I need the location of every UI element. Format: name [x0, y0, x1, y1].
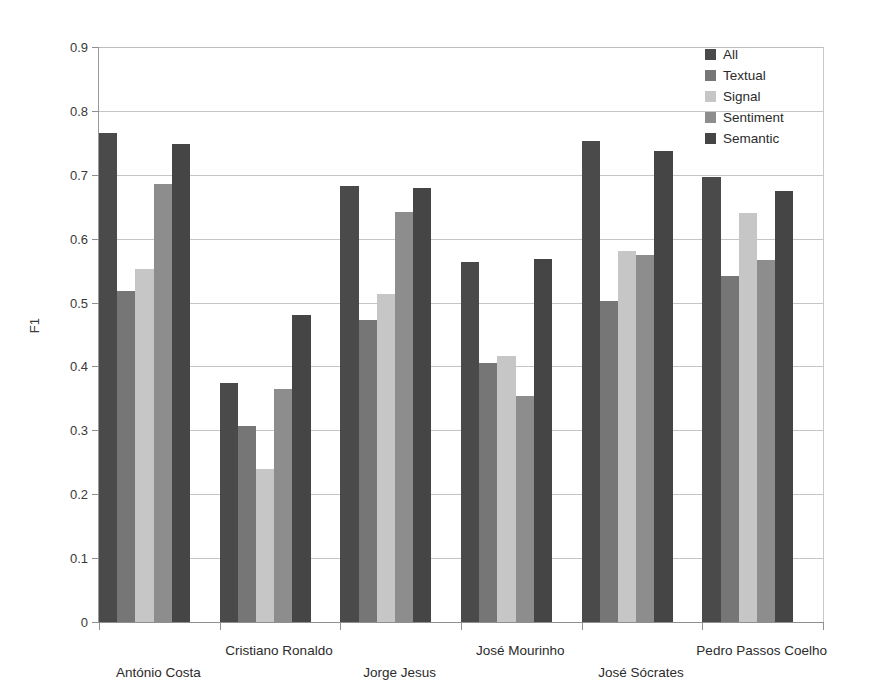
bar-chart: F1 0.90.80.70.60.50.40.30.20.10 António … — [0, 0, 869, 696]
x-tick-mark — [461, 622, 462, 630]
bar — [618, 251, 636, 622]
bar — [739, 213, 757, 622]
bar — [220, 383, 238, 622]
x-axis-label: Jorge Jesus — [363, 665, 436, 680]
y-tick-label: 0.1 — [70, 552, 99, 565]
bar — [461, 262, 479, 622]
bar — [292, 315, 310, 622]
bar — [359, 320, 377, 622]
x-axis-label: José Mourinho — [476, 643, 565, 658]
bar — [413, 188, 431, 622]
bar — [497, 356, 515, 622]
chart-legend: AllTextualSignalSentimentSemantic — [697, 38, 825, 156]
bar — [99, 133, 117, 622]
legend-label: All — [723, 48, 738, 62]
legend-label: Semantic — [723, 132, 779, 146]
x-tick-mark — [702, 622, 703, 630]
bar — [274, 389, 292, 622]
bar-group — [99, 47, 220, 622]
legend-label: Textual — [723, 69, 766, 83]
bar — [534, 259, 552, 622]
bar — [154, 184, 172, 622]
y-tick-label: 0.3 — [70, 424, 99, 437]
bar — [582, 141, 600, 622]
y-tick-label: 0 — [81, 616, 99, 629]
bar — [654, 151, 672, 623]
bar — [479, 363, 497, 622]
bar — [340, 186, 358, 622]
x-axis-label: António Costa — [116, 665, 201, 680]
bar-group — [461, 47, 582, 622]
x-tick-mark — [99, 622, 100, 630]
legend-swatch-icon — [705, 49, 716, 60]
bar — [721, 276, 739, 622]
y-tick-label: 0.2 — [70, 488, 99, 501]
x-axis-label: José Sócrates — [598, 665, 684, 680]
x-axis-labels: António CostaCristiano RonaldoJorge Jesu… — [0, 631, 869, 691]
bar — [377, 294, 395, 622]
legend-swatch-icon — [705, 70, 716, 81]
legend-item: All — [705, 44, 819, 65]
legend-item: Semantic — [705, 128, 819, 149]
x-tick-mark — [582, 622, 583, 630]
legend-swatch-icon — [705, 112, 716, 123]
y-tick-label: 0.6 — [70, 232, 99, 245]
bar — [117, 291, 135, 622]
bar — [238, 426, 256, 622]
bar — [775, 191, 793, 622]
bar — [395, 212, 413, 622]
y-tick-label: 0.7 — [70, 168, 99, 181]
y-tick-label: 0.4 — [70, 360, 99, 373]
x-tick-mark — [823, 622, 824, 630]
legend-item: Signal — [705, 86, 819, 107]
bar-group — [220, 47, 341, 622]
bar-group — [340, 47, 461, 622]
bar-group — [582, 47, 703, 622]
bar — [172, 144, 190, 622]
y-tick-label: 0.5 — [70, 296, 99, 309]
legend-label: Signal — [723, 90, 761, 104]
legend-swatch-icon — [705, 91, 716, 102]
y-tick-label: 0.8 — [70, 104, 99, 117]
bar — [636, 255, 654, 622]
bar — [600, 301, 618, 622]
bar — [757, 260, 775, 622]
y-axis-title: F1 — [27, 306, 42, 346]
legend-item: Textual — [705, 65, 819, 86]
legend-label: Sentiment — [723, 111, 784, 125]
x-tick-mark — [220, 622, 221, 630]
x-axis-label: Pedro Passos Coelho — [696, 643, 827, 658]
bar — [702, 177, 720, 622]
bar — [516, 396, 534, 622]
bar — [135, 269, 153, 622]
x-tick-mark — [340, 622, 341, 630]
bar — [256, 469, 274, 622]
legend-swatch-icon — [705, 133, 716, 144]
y-tick-label: 0.9 — [70, 41, 99, 54]
legend-item: Sentiment — [705, 107, 819, 128]
x-axis-label: Cristiano Ronaldo — [225, 643, 332, 658]
